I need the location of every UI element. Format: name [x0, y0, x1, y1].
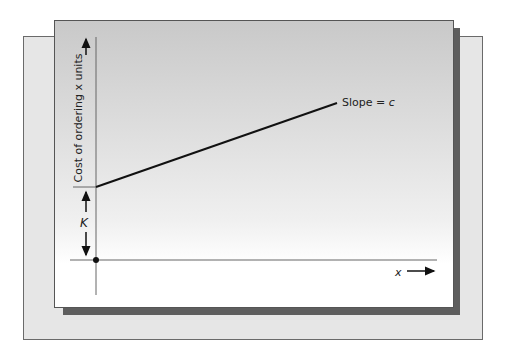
slope-label-prefix: Slope = — [342, 96, 389, 109]
slope-label-var: c — [389, 96, 395, 109]
slope-label: Slope = c — [342, 96, 395, 109]
origin-dot — [93, 257, 99, 263]
intercept-label: K — [80, 216, 88, 230]
x-axis-label: x — [395, 266, 402, 279]
cost-line — [96, 103, 337, 187]
y-axis-label: Cost of ordering x units — [72, 54, 85, 183]
